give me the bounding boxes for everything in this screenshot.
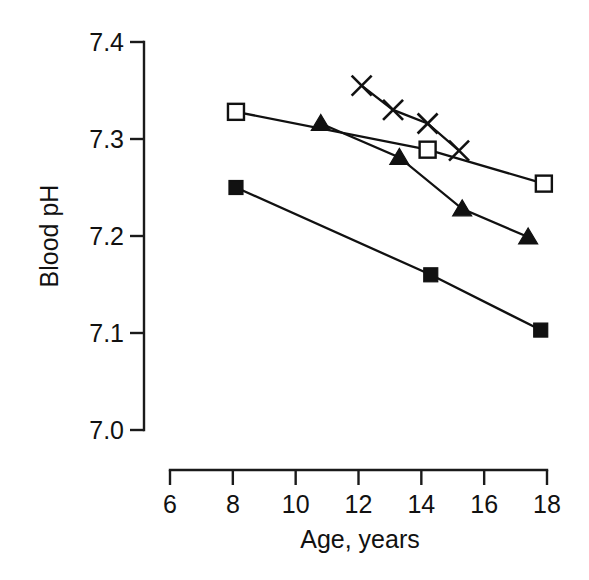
y-tick-label: 7.4: [89, 28, 124, 56]
plot-area: [228, 76, 552, 337]
series-filled-triangle: [311, 114, 537, 243]
x-tick-label: 12: [345, 490, 373, 518]
y-tick-label: 7.1: [89, 319, 124, 347]
marker-filled-square: [534, 323, 548, 337]
y-axis-tick-labels: 7.07.17.27.37.4: [89, 28, 124, 444]
series-line-open-square: [236, 112, 544, 184]
marker-filled-square: [424, 268, 438, 282]
marker-open-square: [420, 142, 436, 158]
x-tick-label: 14: [407, 490, 435, 518]
x-tick-label: 18: [533, 490, 561, 518]
x-axis: 681012141618 Age, years: [163, 470, 561, 553]
x-tick-label: 10: [282, 490, 310, 518]
chart-canvas: 7.07.17.27.37.4 Blood pH 681012141618 Ag…: [0, 0, 589, 580]
x-axis-title: Age, years: [300, 525, 420, 553]
blood-ph-vs-age-chart: 7.07.17.27.37.4 Blood pH 681012141618 Ag…: [0, 0, 589, 580]
y-axis: 7.07.17.27.37.4 Blood pH: [35, 28, 144, 444]
y-tick-label: 7.0: [89, 416, 124, 444]
series-open-square: [228, 104, 552, 192]
y-axis-title: Blood pH: [35, 185, 63, 288]
series-cross: [352, 76, 469, 161]
y-tick-label: 7.3: [89, 125, 124, 153]
marker-filled-triangle: [519, 228, 538, 244]
x-tick-label: 8: [226, 490, 240, 518]
marker-filled-triangle: [311, 114, 330, 130]
series-line-filled-square: [236, 188, 541, 331]
series-filled-square: [229, 181, 548, 338]
x-axis-ticks: [170, 470, 547, 485]
series-line-cross: [362, 86, 459, 151]
y-axis-ticks: [130, 42, 144, 430]
marker-filled-square: [229, 181, 243, 195]
y-tick-label: 7.2: [89, 222, 124, 250]
x-tick-label: 6: [163, 490, 177, 518]
marker-open-square: [536, 176, 552, 192]
x-axis-tick-labels: 681012141618: [163, 490, 561, 518]
marker-open-square: [228, 104, 244, 120]
marker-filled-triangle: [390, 148, 409, 164]
x-tick-label: 16: [470, 490, 498, 518]
